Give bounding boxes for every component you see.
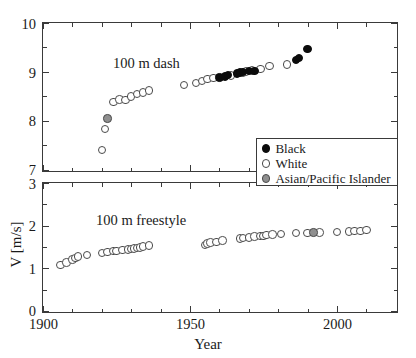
data-point	[309, 228, 317, 236]
x-tick	[72, 168, 73, 172]
plot-panel-100m-freestyle	[42, 182, 398, 313]
y-tick-right	[391, 268, 397, 269]
data-point	[303, 45, 311, 53]
x-tick	[249, 309, 250, 313]
y-tick	[43, 204, 47, 205]
plot-area-bottom	[43, 183, 397, 312]
data-point	[103, 114, 111, 122]
x-tick-top	[102, 23, 103, 27]
y-tick	[43, 247, 47, 248]
x-tick	[190, 306, 191, 312]
x-tick-top	[161, 183, 162, 187]
x-tick	[308, 309, 309, 313]
data-point	[218, 236, 226, 244]
y-tick	[43, 47, 47, 48]
legend-marker-asian-icon	[262, 174, 270, 182]
data-point	[268, 230, 276, 238]
x-tick-label: 2000	[308, 317, 368, 332]
x-tick-top	[278, 23, 279, 27]
y-tick-right	[394, 47, 398, 48]
y-tick-label: 10	[10, 17, 36, 32]
legend-label: Asian/Pacific Islander	[275, 172, 390, 185]
x-tick	[219, 168, 220, 172]
x-tick-top	[102, 183, 103, 187]
x-tick	[131, 309, 132, 313]
data-point	[83, 251, 91, 259]
legend-item-white: White	[262, 156, 393, 171]
data-point	[277, 230, 285, 238]
y-tick	[43, 72, 49, 73]
legend-item-asian: Asian/Pacific Islander	[262, 171, 393, 186]
data-point	[180, 81, 188, 89]
y-tick-right	[391, 121, 397, 122]
data-point	[265, 62, 273, 70]
y-tick	[43, 290, 47, 291]
legend: BlackWhiteAsian/Pacific Islander	[256, 138, 398, 186]
x-tick-top	[131, 183, 132, 187]
data-point	[295, 54, 303, 62]
data-point	[74, 252, 82, 260]
x-tick	[43, 306, 44, 312]
y-tick-right	[391, 226, 397, 227]
y-tick-right	[391, 311, 397, 312]
x-tick-top	[161, 23, 162, 27]
x-tick-top	[72, 183, 73, 187]
x-tick-top	[43, 23, 44, 29]
y-tick-right	[391, 23, 397, 24]
y-tick-right	[394, 290, 398, 291]
x-tick-top	[72, 23, 73, 27]
y-tick	[43, 268, 49, 269]
x-tick	[131, 168, 132, 172]
data-point	[145, 86, 153, 94]
y-tick	[43, 121, 49, 122]
legend-marker-white-icon	[262, 159, 270, 167]
y-tick	[43, 226, 49, 227]
x-tick-label: 1950	[161, 317, 221, 332]
legend-label: Black	[275, 142, 305, 155]
x-tick-top	[190, 23, 191, 29]
data-point	[292, 229, 300, 237]
x-tick	[278, 309, 279, 313]
y-axis-title: V [m/s]	[8, 207, 25, 283]
x-tick-label: 1900	[14, 317, 74, 332]
x-tick	[219, 309, 220, 313]
x-tick	[102, 309, 103, 313]
x-tick-top	[219, 183, 220, 187]
y-tick-right	[394, 247, 398, 248]
x-tick-top	[249, 183, 250, 187]
y-tick-label: 8	[10, 114, 36, 129]
x-tick-top	[337, 23, 338, 29]
data-point	[333, 228, 341, 236]
x-tick-top	[308, 23, 309, 27]
x-tick-top	[43, 183, 44, 189]
legend-item-black: Black	[262, 141, 393, 156]
data-point	[283, 60, 291, 68]
x-tick-top	[190, 183, 191, 189]
x-tick	[102, 168, 103, 172]
data-point	[250, 67, 258, 75]
y-tick	[43, 96, 47, 97]
y-tick-label: 3	[10, 177, 36, 192]
x-tick	[43, 165, 44, 171]
x-tick	[72, 309, 73, 313]
x-tick	[161, 168, 162, 172]
annotation-100m-freestyle: 100 m freestyle	[96, 212, 186, 229]
y-tick-right	[394, 204, 398, 205]
x-tick	[161, 309, 162, 313]
x-axis-title: Year	[0, 336, 416, 353]
y-tick-label: 9	[10, 66, 36, 81]
x-tick	[249, 168, 250, 172]
figure-scatter-olympic-velocities: 789100123190019502000 Year V [m/s] 100 m…	[0, 0, 416, 358]
x-tick-top	[366, 23, 367, 27]
y-tick-right	[394, 96, 398, 97]
data-point	[362, 226, 370, 234]
annotation-100m-dash: 100 m dash	[113, 55, 180, 72]
data-point	[145, 241, 153, 249]
x-tick-top	[219, 23, 220, 27]
x-tick	[366, 309, 367, 313]
x-tick	[190, 165, 191, 171]
x-tick-top	[131, 23, 132, 27]
legend-marker-black-icon	[262, 144, 270, 152]
data-point	[101, 125, 109, 133]
data-point	[98, 146, 106, 154]
